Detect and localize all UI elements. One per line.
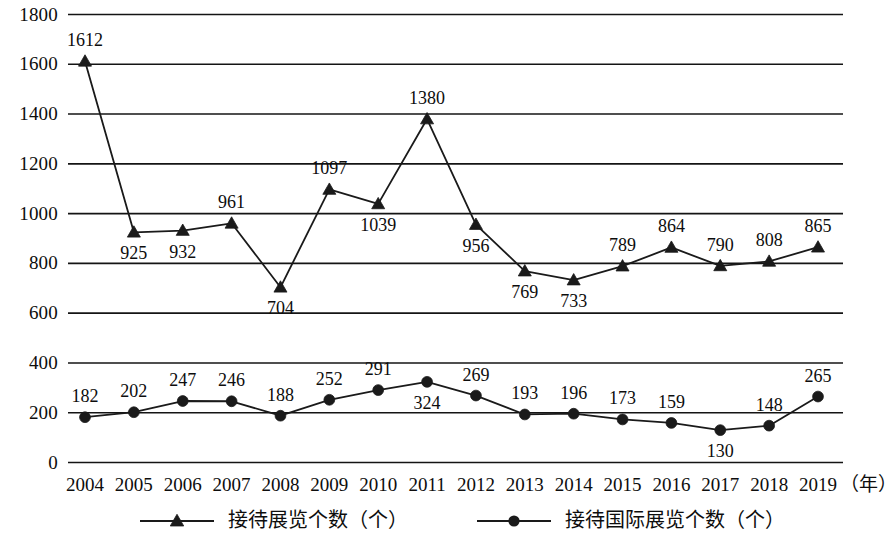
data-point-label: 269 bbox=[446, 366, 506, 384]
data-point-marker-triangle bbox=[323, 183, 336, 194]
data-point-marker-circle bbox=[568, 408, 579, 419]
data-point-label: 789 bbox=[593, 236, 653, 254]
data-point-marker-triangle bbox=[225, 217, 238, 228]
data-point-marker-circle bbox=[519, 409, 530, 420]
data-point-marker-circle bbox=[813, 391, 824, 402]
x-axis-tick-label: 2013 bbox=[499, 475, 551, 494]
x-axis-tick-label: 2006 bbox=[157, 475, 209, 494]
data-point-marker-triangle bbox=[78, 55, 91, 66]
legend-marker-circle bbox=[508, 515, 519, 526]
data-point-marker-triangle bbox=[469, 218, 482, 229]
data-point-label: 864 bbox=[641, 217, 701, 235]
data-point-label: 324 bbox=[397, 394, 457, 412]
legend-item-label-international-exhibitions: 接待国际展览个数（个） bbox=[565, 510, 785, 530]
y-axis-tick-label: 200 bbox=[0, 403, 58, 422]
data-point-marker-circle bbox=[422, 376, 433, 387]
chart-canvas bbox=[0, 0, 886, 537]
data-point-marker-circle bbox=[80, 412, 91, 423]
y-axis-tick-label: 600 bbox=[0, 303, 58, 322]
data-point-marker-circle bbox=[471, 390, 482, 401]
y-axis-tick-label: 1200 bbox=[0, 154, 58, 173]
x-axis-tick-label: 2016 bbox=[645, 475, 697, 494]
data-point-marker-circle bbox=[764, 420, 775, 431]
x-axis-tick-label: 2019 bbox=[792, 475, 844, 494]
x-axis-tick-label: 2012 bbox=[450, 475, 502, 494]
x-axis-tick-label: 2011 bbox=[401, 475, 453, 494]
x-axis-tick-label: 2018 bbox=[743, 475, 795, 494]
y-axis-tick-label: 0 bbox=[0, 453, 58, 472]
data-point-marker-circle bbox=[715, 425, 726, 436]
y-axis-tick-label: 800 bbox=[0, 253, 58, 272]
data-point-marker-circle bbox=[324, 394, 335, 405]
data-point-marker-triangle bbox=[665, 241, 678, 252]
y-axis-tick-label: 1800 bbox=[0, 5, 58, 24]
data-point-label: 130 bbox=[690, 442, 750, 460]
line-chart: 020040060080010001200140016001800 200420… bbox=[0, 0, 886, 537]
y-axis-tick-label: 1000 bbox=[0, 204, 58, 223]
data-point-label: 956 bbox=[446, 237, 506, 255]
x-axis-tick-label: 2009 bbox=[303, 475, 355, 494]
x-axis-tick-label: 2017 bbox=[694, 475, 746, 494]
data-point-marker-circle bbox=[177, 396, 188, 407]
data-point-marker-circle bbox=[617, 414, 628, 425]
data-point-label: 188 bbox=[250, 386, 310, 404]
y-axis-tick-label: 1400 bbox=[0, 104, 58, 123]
x-axis-tick-label: 2015 bbox=[597, 475, 649, 494]
data-point-label: 733 bbox=[544, 292, 604, 310]
data-point-marker-circle bbox=[275, 410, 286, 421]
data-point-label: 865 bbox=[788, 217, 848, 235]
x-axis-tick-label: 2014 bbox=[548, 475, 600, 494]
y-axis-tick-label: 1600 bbox=[0, 54, 58, 73]
data-point-label: 1039 bbox=[348, 216, 408, 234]
x-axis-unit-label: （年） bbox=[840, 475, 886, 494]
data-point-marker-triangle bbox=[811, 241, 824, 252]
x-axis-tick-label: 2004 bbox=[59, 475, 111, 494]
data-point-marker-circle bbox=[666, 418, 677, 429]
data-point-label: 1097 bbox=[299, 159, 359, 177]
data-point-label: 148 bbox=[739, 396, 799, 414]
data-point-label: 1380 bbox=[397, 89, 457, 107]
data-point-label: 159 bbox=[641, 393, 701, 411]
data-point-label: 932 bbox=[153, 243, 213, 261]
data-point-marker-circle bbox=[128, 407, 139, 418]
x-axis-tick-label: 2005 bbox=[108, 475, 160, 494]
data-point-marker-circle bbox=[226, 396, 237, 407]
x-axis-tick-label: 2007 bbox=[206, 475, 258, 494]
data-point-label: 1612 bbox=[55, 31, 115, 49]
data-point-marker-circle bbox=[373, 385, 384, 396]
x-axis-tick-label: 2008 bbox=[254, 475, 306, 494]
y-axis-tick-label: 400 bbox=[0, 353, 58, 372]
data-point-label: 265 bbox=[788, 367, 848, 385]
data-point-label: 704 bbox=[250, 299, 310, 317]
legend-item-label-exhibitions: 接待展览个数（个） bbox=[228, 510, 408, 530]
data-point-label: 291 bbox=[348, 360, 408, 378]
data-point-label: 961 bbox=[202, 193, 262, 211]
x-axis-tick-label: 2010 bbox=[352, 475, 404, 494]
